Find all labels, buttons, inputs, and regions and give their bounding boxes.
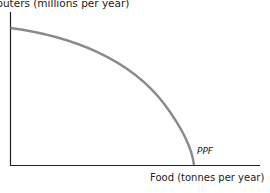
- ppf-chart: [0, 0, 270, 193]
- ppf-label: PPF: [197, 146, 213, 156]
- x-axis-label: Food (tonnes per year): [150, 172, 264, 183]
- ppf-curve: [11, 28, 195, 165]
